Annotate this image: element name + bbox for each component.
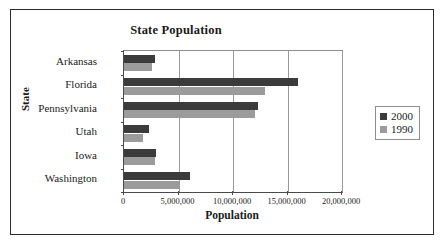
- bar-row: [124, 98, 342, 122]
- bar-iowa-1990: [124, 157, 155, 165]
- y-axis-label-iowa: Iowa: [0, 149, 97, 161]
- figure-frame: State Population State Population Arkans…: [10, 9, 434, 235]
- y-axis-label-arkansas: Arkansas: [0, 55, 97, 67]
- bar-row: [124, 169, 342, 193]
- bar-florida-2000: [124, 78, 298, 86]
- y-axis-tick: [121, 145, 124, 146]
- legend-item-2000[interactable]: 2000: [380, 110, 413, 123]
- legend-item-1990[interactable]: 1990: [380, 123, 413, 136]
- bar-pennsylvania-1990: [124, 110, 255, 118]
- y-axis-label-florida: Florida: [0, 78, 97, 90]
- legend-label-1990: 1990: [391, 123, 413, 136]
- bar-pennsylvania-2000: [124, 102, 258, 110]
- bar-row: [124, 51, 342, 75]
- bar-row: [124, 145, 342, 169]
- y-axis-tick: [121, 51, 124, 52]
- chart-legend[interactable]: 20001990: [375, 106, 420, 140]
- bar-washington-1990: [124, 181, 180, 189]
- gridline: [342, 51, 343, 192]
- y-axis-label-pennsylvania: Pennsylvania: [0, 102, 97, 114]
- legend-swatch-2000: [380, 113, 387, 120]
- bar-utah-2000: [124, 125, 149, 133]
- bar-iowa-2000: [124, 149, 156, 157]
- chart-title: State Population: [11, 23, 341, 38]
- y-axis-tick: [121, 75, 124, 76]
- bar-florida-1990: [124, 87, 265, 95]
- x-axis-tick: [287, 191, 288, 195]
- bar-washington-2000: [124, 172, 190, 180]
- x-axis-title: Population: [123, 209, 341, 221]
- legend-swatch-1990: [380, 126, 387, 133]
- y-axis-label-utah: Utah: [0, 125, 97, 137]
- y-axis-tick: [121, 169, 124, 170]
- y-axis-label-washington: Washington: [0, 172, 97, 184]
- x-axis-tick: [341, 191, 342, 195]
- plot-area: [123, 50, 343, 193]
- x-axis-tick: [178, 191, 179, 195]
- y-axis-tick: [121, 122, 124, 123]
- bar-utah-1990: [124, 134, 143, 142]
- bar-row: [124, 122, 342, 146]
- x-axis-tick: [123, 191, 124, 195]
- y-axis-tick: [121, 98, 124, 99]
- bar-row: [124, 75, 342, 99]
- legend-label-2000: 2000: [391, 110, 413, 123]
- chart-screenshot: State Population State Population Arkans…: [0, 0, 444, 244]
- bar-arkansas-1990: [124, 63, 152, 71]
- bar-arkansas-2000: [124, 55, 155, 63]
- x-axis-tick: [232, 191, 233, 195]
- x-axis-label: 20,000,000: [301, 196, 381, 206]
